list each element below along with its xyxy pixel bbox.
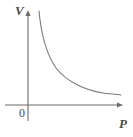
inverse-proportion-curve xyxy=(39,11,121,95)
origin-label: 0 xyxy=(19,107,25,119)
x-axis-label: P xyxy=(119,117,127,130)
pressure-volume-figure: V P 0 xyxy=(0,0,133,137)
x-axis-arrowhead-icon xyxy=(117,102,123,107)
y-axis-group xyxy=(25,10,30,121)
y-axis-label: V xyxy=(15,4,24,17)
y-axis-arrowhead-icon xyxy=(25,10,30,16)
